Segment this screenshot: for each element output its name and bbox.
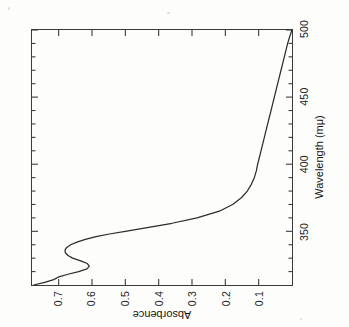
absorbance-tick-label: 0.4 [153, 291, 165, 306]
wavelength-tick-label: 450 [298, 88, 310, 106]
spectrum-curve [34, 30, 292, 285]
wavelength-tick-label: 400 [298, 155, 310, 173]
rotated-chart-canvas: 0.10.20.30.40.50.60.7 350400450500 Wavel… [0, 0, 349, 327]
wavelength-tick-label: 500 [298, 20, 310, 38]
absorbance-tick-label: 0.6 [85, 291, 97, 306]
absorbance-tick-label: 0.7 [52, 291, 64, 306]
plot-area [31, 29, 293, 286]
y-axis-title: Absorbence [133, 309, 192, 321]
absorbance-tick-label: 0.1 [253, 291, 265, 306]
absorbance-tick-label: 0.2 [220, 291, 232, 306]
tick-marks [32, 30, 292, 285]
figure-scan: 0.10.20.30.40.50.60.7 350400450500 Wavel… [0, 0, 349, 327]
spectrum-plot-svg [32, 30, 292, 285]
absorbance-tick-label: 0.3 [186, 291, 198, 306]
absorbance-tick-label: 0.5 [119, 291, 131, 306]
x-axis-title: Wavelength (mμ) [313, 115, 325, 199]
wavelength-tick-label: 350 [298, 223, 310, 241]
